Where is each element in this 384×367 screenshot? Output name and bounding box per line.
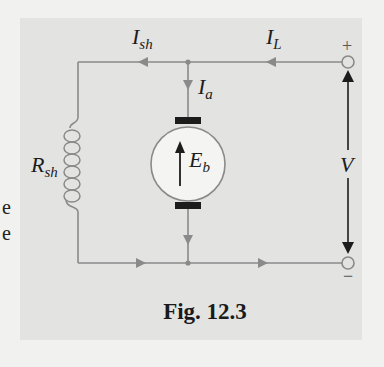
label-subscript: b (202, 159, 210, 175)
label-negative-sign: − (343, 267, 353, 285)
label-shunt-current: Ish (132, 26, 153, 52)
positive-terminal-icon (342, 56, 354, 68)
arrow-down-icon (183, 80, 193, 90)
junction-dot-bottom (185, 260, 190, 265)
dc-motor-armature-icon (151, 117, 225, 209)
junction-dot-top (185, 59, 190, 64)
label-subscript: sh (139, 36, 152, 52)
label-subscript: L (273, 36, 281, 52)
label-main: R (31, 152, 44, 177)
label-armature-current: Ia (198, 76, 213, 102)
shunt-field-coil-icon (64, 117, 80, 212)
arrow-left-icon (138, 57, 148, 67)
label-shunt-resistance: Rsh (31, 154, 58, 180)
label-subscript: a (205, 86, 213, 102)
arrow-right-icon (136, 258, 146, 268)
figure-caption: Fig. 12.3 (150, 299, 260, 325)
label-positive-sign: + (342, 37, 352, 55)
label-subscript: sh (44, 164, 57, 180)
arrow-right-icon (258, 258, 268, 268)
label-back-emf: Eb (189, 149, 210, 175)
arrow-down-icon (183, 235, 193, 245)
arrow-left-icon (266, 57, 276, 67)
label-line-current: IL (266, 26, 282, 52)
label-voltage: V (340, 154, 353, 176)
label-main: E (189, 147, 202, 172)
